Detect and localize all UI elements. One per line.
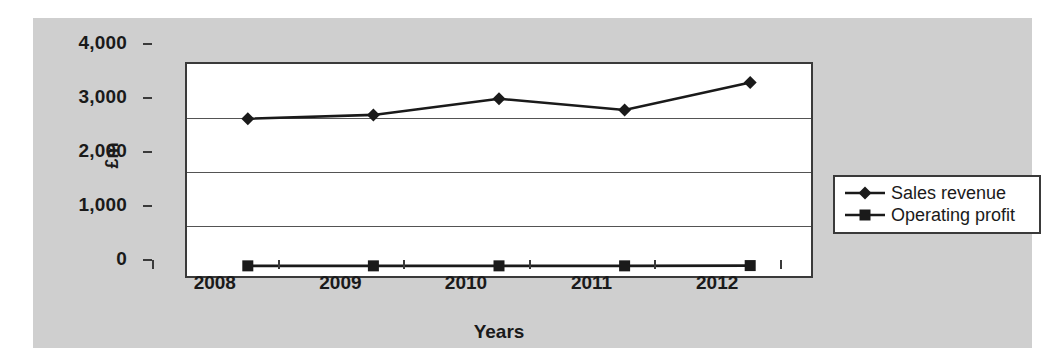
square-marker-icon — [843, 205, 887, 225]
y-axis-tick-mark — [143, 259, 152, 261]
x-axis-tick-label: 2010 — [406, 272, 526, 294]
x-axis-tick-mark — [403, 260, 405, 269]
y-axis-tick-label: 3,000 — [17, 86, 127, 108]
legend-item-2[interactable]: Operating profit — [843, 204, 1031, 226]
chart-canvas: £m 01,0002,0003,0004,000 200820092010201… — [33, 18, 1032, 348]
data-point-marker — [618, 104, 631, 117]
data-point-marker — [745, 260, 756, 271]
legend-item-1[interactable]: Sales revenue — [843, 182, 1031, 204]
y-axis-tick-mark — [143, 97, 152, 99]
x-axis-title: Years — [185, 321, 813, 343]
legend-item-label: Sales revenue — [887, 183, 1006, 204]
data-point-marker — [744, 76, 757, 89]
data-point-marker — [494, 260, 505, 271]
x-axis-tick-label: 2008 — [155, 272, 275, 294]
legend-item-label: Operating profit — [887, 205, 1015, 226]
data-point-marker — [493, 92, 506, 105]
y-axis-tick-mark — [143, 43, 152, 45]
x-axis-tick-label: 2012 — [657, 272, 777, 294]
data-point-marker — [367, 108, 380, 121]
data-point-marker — [241, 112, 254, 125]
series-layer — [185, 62, 813, 278]
x-axis-tick-label: 2011 — [532, 272, 652, 294]
data-point-marker — [368, 260, 379, 271]
chart-legend: Sales revenueOperating profit — [833, 175, 1041, 234]
diamond-marker-icon — [843, 183, 887, 203]
series-1 — [241, 76, 756, 125]
x-axis-tick-mark — [780, 260, 782, 269]
y-axis-tick-label: 2,000 — [17, 140, 127, 162]
x-axis-tick-mark — [152, 260, 154, 269]
x-axis-tick-mark — [278, 260, 280, 269]
data-point-marker — [619, 260, 630, 271]
y-axis-tick-label: 4,000 — [17, 32, 127, 54]
x-axis-tick-mark — [654, 260, 656, 269]
x-axis-tick-label: 2009 — [280, 272, 400, 294]
y-axis-tick-label: 0 — [17, 248, 127, 270]
data-point-marker — [242, 260, 253, 271]
x-axis-tick-mark — [529, 260, 531, 269]
y-axis-tick-label: 1,000 — [17, 194, 127, 216]
y-axis-tick-mark — [143, 151, 152, 153]
series-2 — [242, 260, 755, 271]
chart-figure: £m 01,0002,0003,0004,000 200820092010201… — [0, 0, 1056, 362]
y-axis-tick-mark — [143, 205, 152, 207]
